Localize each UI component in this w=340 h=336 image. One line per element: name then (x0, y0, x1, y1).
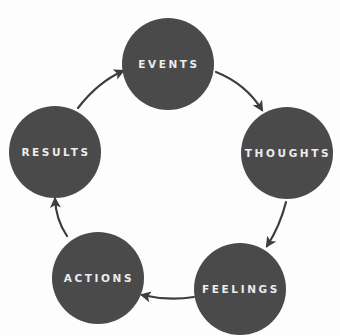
cycle-diagram: EVENTS THOUGHTS FEELINGS ACTIONS RESULTS (0, 0, 340, 336)
arrow-events-to-thoughts (216, 72, 262, 110)
arrow-feelings-to-actions (142, 295, 194, 299)
node-results-label: RESULTS (21, 146, 90, 158)
node-feelings-label: FEELINGS (202, 283, 280, 295)
node-thoughts: THOUGHTS (241, 107, 333, 199)
arrow-actions-to-results (55, 199, 67, 236)
node-events: EVENTS (122, 18, 214, 110)
node-results: RESULTS (9, 106, 101, 198)
node-thoughts-label: THOUGHTS (245, 147, 331, 159)
arrow-results-to-events (78, 71, 123, 108)
node-actions-label: ACTIONS (64, 272, 134, 284)
node-actions: ACTIONS (52, 232, 144, 324)
node-events-label: EVENTS (138, 58, 200, 70)
node-feelings: FEELINGS (194, 243, 286, 335)
arrow-thoughts-to-feelings (267, 202, 286, 246)
